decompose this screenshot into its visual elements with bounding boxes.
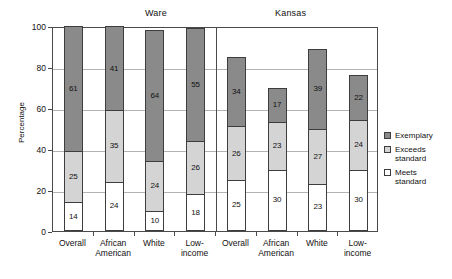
bar-value-label: 17	[273, 101, 282, 109]
bar-value-label: 41	[110, 65, 119, 73]
bar-segment-exceeds-standard[interactable]: 23	[268, 122, 287, 169]
bar-segment-exemplary[interactable]: 17	[268, 88, 287, 123]
bar-segment-exceeds-standard[interactable]: 26	[227, 126, 246, 179]
y-tick-mark-0	[48, 232, 52, 233]
bar-segment-exemplary[interactable]: 34	[227, 57, 246, 127]
bar-value-label: 24	[354, 141, 363, 149]
bar-segment-exemplary[interactable]: 55	[186, 28, 205, 141]
bar-value-label: 39	[313, 85, 322, 93]
bar-value-label: 26	[232, 150, 241, 158]
bar-value-label: 23	[273, 142, 282, 150]
x-tick-mark	[215, 232, 216, 236]
bar-kansas-white[interactable]: 232739	[308, 49, 327, 231]
y-tick-label-60: 60	[2, 104, 46, 114]
bar-segment-meets-standard[interactable]: 18	[186, 194, 205, 231]
legend-label: Exemplary	[395, 131, 433, 140]
y-tick-label-0: 0	[2, 227, 46, 237]
bar-kansas-african-american[interactable]: 302317	[268, 88, 287, 231]
x-tick-mark	[297, 232, 298, 236]
bar-segment-meets-standard[interactable]: 24	[105, 182, 124, 231]
bar-value-label: 35	[110, 142, 119, 150]
bar-ware-white[interactable]: 102464	[145, 30, 164, 231]
bar-value-label: 25	[69, 173, 78, 181]
bar-value-label: 24	[150, 182, 159, 190]
panel-title-ware: Ware	[145, 8, 167, 18]
legend-item-meets-standard[interactable]: Meets standard	[384, 168, 452, 186]
legend-label: Meets standard	[395, 168, 426, 186]
x-tick-label-low-income: Low- income	[330, 238, 386, 258]
legend-item-exemplary[interactable]: Exemplary	[384, 131, 452, 140]
bar-segment-exceeds-standard[interactable]: 25	[64, 151, 83, 202]
panel-divider	[216, 28, 217, 231]
bar-segment-exceeds-standard[interactable]: 27	[308, 129, 327, 184]
bar-segment-meets-standard[interactable]: 30	[268, 170, 287, 232]
chart-legend: ExemplaryExceeds standardMeets standard	[384, 131, 452, 191]
bar-kansas-overall[interactable]: 252634	[227, 57, 246, 231]
bar-kansas-low-income[interactable]: 302422	[349, 75, 368, 231]
stacked-bar-chart: Ware Kansas Percentage 020406080100 1425…	[0, 0, 452, 279]
bar-ware-african-american[interactable]: 243541	[105, 26, 124, 231]
bar-value-label: 10	[150, 217, 159, 225]
bar-value-label: 25	[232, 201, 241, 209]
bar-value-label: 55	[191, 81, 200, 89]
legend-item-exceeds-standard[interactable]: Exceeds standard	[384, 145, 452, 163]
bar-value-label: 27	[313, 153, 322, 161]
bar-value-label: 23	[313, 203, 322, 211]
bar-value-label: 64	[150, 92, 159, 100]
legend-swatch-icon	[384, 169, 391, 176]
y-tick-label-40: 40	[2, 145, 46, 155]
bar-segment-meets-standard[interactable]: 10	[145, 211, 164, 232]
bar-segment-meets-standard[interactable]: 14	[64, 202, 83, 231]
bar-value-label: 22	[354, 94, 363, 102]
bar-segment-exemplary[interactable]: 41	[105, 26, 124, 110]
bar-segment-exemplary[interactable]: 61	[64, 26, 83, 151]
bar-segment-exemplary[interactable]: 64	[145, 30, 164, 161]
bar-segment-meets-standard[interactable]: 23	[308, 184, 327, 231]
bar-value-label: 30	[354, 196, 363, 204]
legend-swatch-icon	[384, 132, 391, 139]
bar-value-label: 24	[110, 202, 119, 210]
x-tick-mark	[134, 232, 135, 236]
x-tick-mark	[174, 232, 175, 236]
x-tick-mark	[256, 232, 257, 236]
bar-value-label: 30	[273, 196, 282, 204]
y-tick-label-80: 80	[2, 63, 46, 73]
bar-value-label: 14	[69, 213, 78, 221]
gridline-80	[53, 69, 377, 70]
bar-segment-exceeds-standard[interactable]: 24	[349, 120, 368, 169]
gridline-20	[53, 192, 377, 193]
bar-value-label: 34	[232, 88, 241, 96]
bar-segment-exceeds-standard[interactable]: 26	[186, 141, 205, 194]
legend-label: Exceeds standard	[395, 145, 426, 163]
bar-value-label: 18	[191, 209, 200, 217]
bar-segment-meets-standard[interactable]: 25	[227, 180, 246, 231]
panel-title-kansas: Kansas	[275, 8, 306, 18]
y-tick-label-100: 100	[2, 22, 46, 32]
bar-ware-overall[interactable]: 142561	[64, 26, 83, 231]
bar-segment-exceeds-standard[interactable]: 35	[105, 110, 124, 182]
bar-value-label: 61	[69, 85, 78, 93]
bar-segment-meets-standard[interactable]: 30	[349, 170, 368, 232]
legend-swatch-icon	[384, 146, 391, 153]
bar-segment-exemplary[interactable]: 22	[349, 75, 368, 120]
gridline-40	[53, 151, 377, 152]
bar-value-label: 26	[191, 164, 200, 172]
x-tick-mark	[93, 232, 94, 236]
y-tick-label-20: 20	[2, 186, 46, 196]
plot-area: 1425612435411024641826552526343023172327…	[52, 27, 378, 232]
x-tick-mark	[337, 232, 338, 236]
bar-ware-low-income[interactable]: 182655	[186, 28, 205, 231]
bar-segment-exemplary[interactable]: 39	[308, 49, 327, 129]
gridline-60	[53, 110, 377, 111]
bar-segment-exceeds-standard[interactable]: 24	[145, 161, 164, 210]
